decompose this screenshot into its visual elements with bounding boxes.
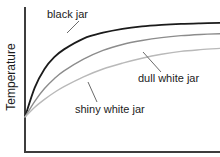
leader-line-black-jar xyxy=(67,21,79,33)
series-label-dull-white-jar: dull white jar xyxy=(138,72,199,84)
leader-line-shiny-white-jar xyxy=(88,82,97,102)
y-axis-title-group: Temperature xyxy=(4,43,18,111)
chart-annotation-leaders xyxy=(67,21,161,102)
temperature-line-chart: black jar dull white jar shiny white jar… xyxy=(0,0,220,157)
y-axis-title: Temperature xyxy=(4,43,18,111)
series-label-shiny-white-jar: shiny white jar xyxy=(75,103,145,115)
series-label-black-jar: black jar xyxy=(47,8,88,20)
